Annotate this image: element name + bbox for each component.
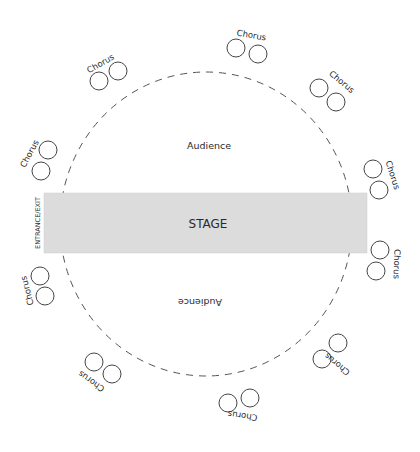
performer-marker bbox=[310, 79, 328, 97]
performer-marker bbox=[219, 394, 237, 412]
performer-marker bbox=[39, 141, 57, 159]
performer-marker bbox=[36, 287, 54, 305]
chorus-label: Chorus bbox=[227, 409, 259, 423]
chorus-label: Chorus bbox=[391, 249, 402, 280]
performer-marker bbox=[371, 241, 389, 259]
chorus-label: Chorus bbox=[327, 68, 357, 95]
performer-marker bbox=[370, 181, 388, 199]
chorus-label: Chorus bbox=[18, 138, 41, 170]
performer-marker bbox=[327, 93, 345, 111]
chorus-group-top-left: Chorus bbox=[85, 51, 127, 90]
performer-marker bbox=[329, 334, 347, 352]
entrance-exit-label: ENTRANCE/EXIT bbox=[34, 197, 42, 249]
performer-marker bbox=[227, 39, 245, 57]
chorus-group-bottom-right: Chorus bbox=[313, 334, 352, 378]
chorus-group-right-upper: Chorus bbox=[364, 159, 402, 199]
performer-marker bbox=[32, 162, 50, 180]
chorus-group-right-lower: Chorus bbox=[367, 241, 403, 280]
performer-marker bbox=[31, 267, 49, 285]
performer-marker bbox=[364, 160, 382, 178]
chorus-group-left-upper: Chorus bbox=[18, 138, 57, 180]
chorus-label: Chorus bbox=[85, 51, 116, 75]
stage-label: STAGE bbox=[189, 217, 228, 231]
audience-label-upper: Audience bbox=[187, 140, 231, 151]
chorus-group-bottom-left: Chorus bbox=[76, 353, 121, 394]
chorus-label: Chorus bbox=[76, 368, 107, 394]
performer-marker bbox=[103, 365, 121, 383]
chorus-group-top-right: Chorus bbox=[310, 68, 357, 111]
chorus-group-top: Chorus bbox=[227, 28, 268, 63]
chorus-label: Chorus bbox=[18, 275, 36, 307]
chorus-label: Chorus bbox=[322, 351, 352, 378]
performer-marker bbox=[90, 72, 108, 90]
performer-marker bbox=[85, 353, 103, 371]
stage-plan-diagram: STAGE ENTRANCE/EXIT Audience Audience Ch… bbox=[0, 0, 420, 452]
performer-marker bbox=[367, 262, 385, 280]
chorus-group-left-lower: Chorus bbox=[18, 267, 54, 306]
performer-marker bbox=[109, 62, 127, 80]
performer-marker bbox=[249, 45, 267, 63]
audience-label-lower: Audience bbox=[178, 297, 222, 308]
chorus-label: Chorus bbox=[383, 159, 402, 191]
chorus-group-bottom: Chorus bbox=[219, 389, 259, 423]
performer-marker bbox=[241, 389, 259, 407]
